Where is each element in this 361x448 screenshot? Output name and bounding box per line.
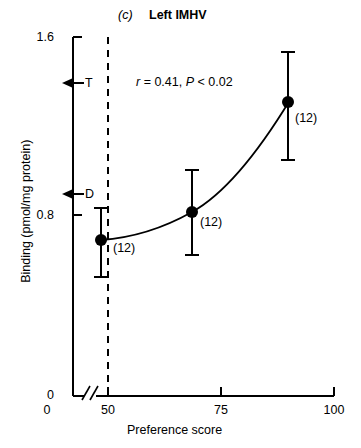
axis-break-slash-icon (82, 386, 98, 400)
panel-letter: (c) (118, 9, 133, 22)
x-tick-label-75: 75 (204, 404, 238, 417)
page-title: Left IMHV (149, 9, 207, 22)
x-axis (73, 387, 334, 396)
y-axis (73, 37, 82, 396)
x-tick-label-50: 50 (91, 404, 125, 417)
plot-canvas (0, 0, 361, 448)
data-point-3 (281, 52, 295, 160)
axis-marker-label-T: T (85, 77, 93, 90)
x-tick-label-100: 100 (317, 404, 351, 417)
stats-p-value: < 0.02 (194, 75, 233, 89)
figure-panel-c: (c) Left IMHV r = 0.41, P < 0.02 Binding… (0, 0, 361, 448)
x-tick-label-0: 0 (30, 404, 64, 417)
y-tick-label-0.8: 0.8 (26, 209, 54, 222)
sample-size-label-2: (12) (200, 216, 222, 229)
axis-marker-label-D: D (85, 188, 94, 201)
sample-size-label-3: (12) (295, 112, 317, 125)
x-axis-label: Preference score (127, 424, 222, 437)
y-tick-label-0: 0 (30, 389, 54, 402)
stats-p-symbol: P (186, 75, 194, 89)
data-point-1 (94, 208, 108, 277)
data-point-2 (185, 170, 199, 255)
stats-r-value: = 0.41, (140, 75, 186, 89)
sample-size-label-1: (12) (113, 242, 135, 255)
y-tick-label-1.6: 1.6 (26, 31, 54, 44)
stats-annotation: r = 0.41, P < 0.02 (136, 76, 233, 89)
